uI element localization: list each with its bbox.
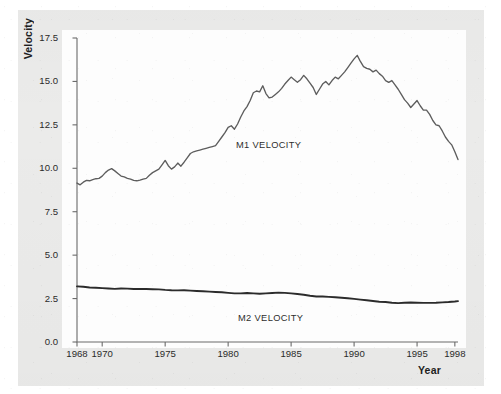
m1-velocity-annotation: M1 VELOCITY bbox=[236, 140, 301, 150]
x-axis-tick-labels: 19681970197519801985199019951998 bbox=[0, 348, 501, 364]
y-tick-label: 5.0 bbox=[24, 249, 58, 260]
m2-velocity-annotation: M2 VELOCITY bbox=[238, 313, 303, 323]
y-tick-label: 10.0 bbox=[24, 162, 58, 173]
y-tick-label: 0.0 bbox=[24, 336, 58, 347]
x-tick-label: 1998 bbox=[444, 348, 465, 359]
y-axis-title: Velocity bbox=[22, 18, 40, 59]
axis-layer bbox=[73, 38, 459, 347]
x-tick-label: 1990 bbox=[343, 348, 364, 359]
x-tick-label: 1968 bbox=[66, 348, 87, 359]
x-tick-label: 1985 bbox=[280, 348, 301, 359]
velocity-line-chart bbox=[0, 0, 501, 394]
x-tick-label: 1995 bbox=[406, 348, 427, 359]
y-tick-label: 15.0 bbox=[24, 75, 58, 86]
figure-page: 0.02.55.07.510.012.515.017.5 19681970197… bbox=[0, 0, 501, 394]
x-tick-label: 1975 bbox=[154, 348, 175, 359]
series-layer bbox=[77, 55, 458, 303]
y-tick-label: 12.5 bbox=[24, 119, 58, 130]
y-tick-label: 7.5 bbox=[24, 206, 58, 217]
y-tick-label: 2.5 bbox=[24, 293, 58, 304]
x-axis-title: Year bbox=[418, 364, 441, 376]
x-tick-label: 1970 bbox=[92, 348, 113, 359]
x-tick-label: 1980 bbox=[217, 348, 238, 359]
